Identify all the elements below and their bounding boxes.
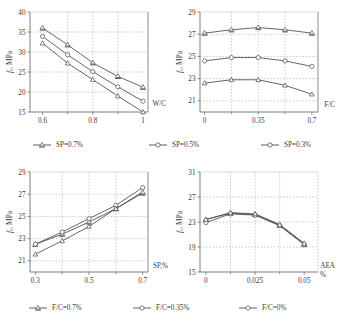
- data-point-circle: [310, 64, 314, 68]
- y-tick-label: 31: [188, 169, 196, 177]
- svg-text:fc, MPa: fc, MPa: [175, 210, 184, 233]
- x-tick-label: 0.6: [38, 117, 47, 125]
- y-tick-label: 15: [18, 109, 26, 117]
- data-point-circle: [66, 53, 70, 57]
- y-tick-label: 25: [18, 69, 26, 77]
- plot-area: [30, 12, 148, 112]
- y-tick-label: 21: [188, 97, 196, 105]
- legend-item: SP=0.3%: [260, 140, 311, 150]
- y-tick-label: 29: [18, 169, 26, 177]
- svg-text:fc, MPa: fc, MPa: [5, 50, 14, 73]
- chart-panel-wc: 1520253035400.60.81fc, MPaW/C: [0, 2, 170, 137]
- data-point-circle: [91, 70, 95, 74]
- chart-panel-fc: 212325272900.350.7fc, MPaF/C: [172, 2, 339, 137]
- x-axis-title: W/C: [152, 100, 166, 108]
- svg-text:fc, MPa: fc, MPa: [5, 210, 14, 233]
- legend-marker-triangle-bar: [32, 140, 52, 150]
- data-point-circle: [87, 217, 91, 221]
- y-tick-label: 15: [188, 269, 196, 277]
- legend-label: SP=0.3%: [284, 141, 311, 149]
- y-tick-label: 23: [188, 75, 196, 83]
- svg-text:fc, MPa: fc, MPa: [175, 50, 184, 73]
- x-tick-label: 0: [203, 117, 207, 125]
- x-axis-title: F/C: [324, 101, 335, 109]
- legend-sp: SP=0.7%SP=0.5%SP=0.3%: [20, 139, 330, 155]
- x-tick-label: 0: [204, 277, 208, 285]
- data-point-circle: [140, 306, 144, 310]
- legend-item: SP=0.7%: [32, 140, 83, 150]
- legend-marker-circle: [238, 303, 258, 313]
- data-point-circle: [33, 242, 37, 246]
- data-point-circle: [283, 59, 287, 63]
- legend-fc: F/C=0.7%F/C=0.35%F/C=0%: [20, 302, 330, 318]
- data-point-circle: [141, 99, 145, 103]
- data-point-circle: [60, 230, 64, 234]
- x-axis-title: SP,%: [153, 262, 168, 270]
- y-tick-label: 25: [188, 53, 196, 61]
- legend-item: SP=0.5%: [148, 140, 199, 150]
- data-point-circle: [202, 59, 206, 63]
- chart-panel-sp: 21232527290.30.50.7fc, MPaSP,%: [0, 162, 170, 300]
- legend-label: F/C=0.7%: [52, 304, 82, 312]
- legend-marker-circle: [132, 303, 152, 313]
- chart-fc-svg: 212325272900.350.7fc, MPaF/C: [172, 2, 339, 137]
- data-point-circle: [40, 34, 44, 38]
- chart-sp-svg: 21232527290.30.50.7fc, MPaSP,%: [0, 162, 170, 300]
- data-point-circle: [246, 306, 250, 310]
- chart-wc-svg: 1520253035400.60.81fc, MPaW/C: [0, 2, 170, 137]
- legend-item: F/C=0.35%: [132, 303, 189, 313]
- y-tick-label: 23: [18, 235, 26, 243]
- legend-item: F/C=0%: [238, 303, 286, 313]
- x-tick-label: 1: [141, 117, 145, 125]
- y-axis-title: fc, MPa: [175, 210, 184, 233]
- x-axis-title: AEA: [320, 262, 336, 270]
- legend-label: SP=0.7%: [56, 141, 83, 149]
- x-tick-label: 0.7: [307, 117, 316, 125]
- chart-panel-aea: 151923273100.0250.05fc, MPaAEA%: [172, 162, 339, 300]
- legend-marker-circle: [148, 140, 168, 150]
- legend-item: F/C=0.7%: [28, 303, 82, 313]
- x-tick-label: 0.025: [247, 277, 264, 285]
- legend-label: F/C=0%: [262, 304, 286, 312]
- data-point-circle: [256, 55, 260, 59]
- y-axis-title: fc, MPa: [5, 50, 14, 73]
- y-tick-label: 23: [188, 219, 196, 227]
- y-tick-label: 20: [18, 89, 26, 97]
- chart-aea-svg: 151923273100.0250.05fc, MPaAEA%: [172, 162, 339, 300]
- y-tick-label: 29: [188, 9, 196, 17]
- y-tick-label: 21: [18, 257, 26, 265]
- y-tick-label: 27: [18, 191, 26, 199]
- y-tick-label: 30: [18, 49, 26, 57]
- x-tick-label: 0.3: [31, 277, 40, 285]
- x-tick-label: 0.7: [138, 277, 147, 285]
- data-point-circle: [268, 143, 272, 147]
- x-tick-label: 0.8: [88, 117, 97, 125]
- y-tick-label: 40: [18, 9, 26, 17]
- data-point-circle: [116, 85, 120, 89]
- x-tick-label: 0.5: [85, 277, 94, 285]
- legend-label: F/C=0.35%: [156, 304, 189, 312]
- y-tick-label: 25: [18, 213, 26, 221]
- x-tick-label: 0.05: [298, 277, 311, 285]
- x-axis-unit: %: [320, 271, 326, 279]
- data-point-circle: [156, 143, 160, 147]
- y-tick-label: 27: [188, 31, 196, 39]
- data-point-circle: [229, 55, 233, 59]
- y-axis-title: fc, MPa: [5, 210, 14, 233]
- y-tick-label: 27: [188, 194, 196, 202]
- y-axis-title: fc, MPa: [175, 50, 184, 73]
- legend-marker-circle: [260, 140, 280, 150]
- legend-marker-triangle-bar: [28, 303, 48, 313]
- y-tick-label: 19: [188, 244, 196, 252]
- x-tick-label: 0.35: [252, 117, 265, 125]
- y-tick-label: 35: [18, 29, 26, 37]
- figure-root: 1520253035400.60.81fc, MPaW/C 2123252729…: [0, 0, 339, 325]
- legend-label: SP=0.5%: [172, 141, 199, 149]
